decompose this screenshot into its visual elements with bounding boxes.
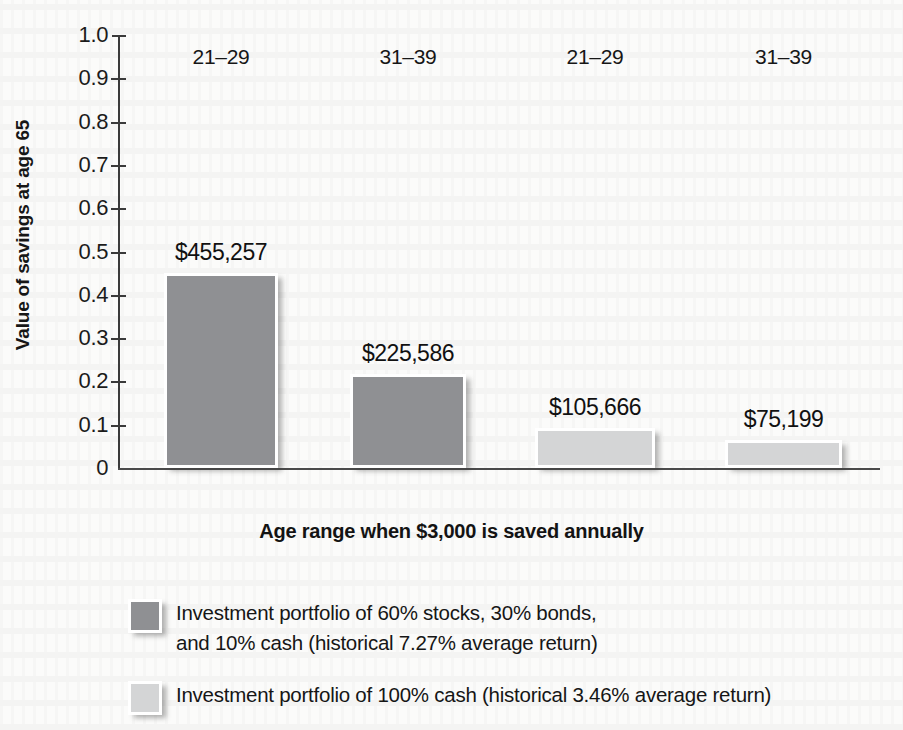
y-axis-tick-label: 0.7 bbox=[52, 152, 108, 178]
y-axis-tick-label: 0 bbox=[52, 455, 108, 481]
x-axis-line bbox=[118, 468, 880, 470]
y-axis-tick-mark bbox=[111, 381, 126, 383]
y-axis-tick-mark bbox=[111, 252, 126, 254]
y-axis-tick-mark bbox=[111, 78, 126, 80]
y-axis-title: Value of savings at age 65 bbox=[0, 0, 46, 470]
y-axis-tick-label: 0.2 bbox=[52, 368, 108, 394]
legend-label-line-2: and 10% cash (historical 7.27% average r… bbox=[176, 628, 598, 658]
y-axis-tick-mark bbox=[111, 338, 126, 340]
legend-label: Investment portfolio of 100% cash (histo… bbox=[176, 680, 771, 710]
y-axis-tick-label: 0.1 bbox=[52, 412, 108, 438]
legend-label-line-1: Investment portfolio of 100% cash (histo… bbox=[176, 683, 771, 706]
y-axis-top-cap bbox=[112, 35, 126, 37]
legend-color-swatch bbox=[128, 681, 162, 715]
bar bbox=[164, 273, 278, 468]
y-axis-tick-label: 0.8 bbox=[52, 109, 108, 135]
y-axis-tick-mark bbox=[111, 425, 126, 427]
legend-label-line-1: Investment portfolio of 60% stocks, 30% … bbox=[176, 601, 596, 624]
bar bbox=[350, 374, 466, 468]
bar-value-label: $75,199 bbox=[705, 406, 862, 433]
y-axis-tick-label: 0.3 bbox=[52, 325, 108, 351]
y-axis-tick-mark bbox=[111, 295, 126, 297]
legend-label: Investment portfolio of 60% stocks, 30% … bbox=[176, 598, 598, 658]
bar bbox=[725, 440, 842, 468]
legend-item: Investment portfolio of 60% stocks, 30% … bbox=[128, 598, 888, 658]
legend-item: Investment portfolio of 100% cash (histo… bbox=[128, 680, 888, 715]
y-axis-tick-label: 1.0 bbox=[52, 22, 108, 48]
chart-legend: Investment portfolio of 60% stocks, 30% … bbox=[128, 598, 888, 730]
x-axis-tick-label: 21–29 bbox=[139, 45, 303, 69]
x-axis-tick-label: 21–29 bbox=[510, 45, 680, 69]
bar-value-label: $225,586 bbox=[330, 340, 486, 367]
y-axis-title-text: Value of savings at age 65 bbox=[12, 120, 34, 350]
x-axis-tick-label: 31–39 bbox=[325, 45, 491, 69]
y-axis-tick-mark bbox=[111, 165, 126, 167]
x-axis-title: Age range when $3,000 is saved annually bbox=[0, 520, 903, 543]
y-axis-tick-label: 0.6 bbox=[52, 195, 108, 221]
bar-value-label: $105,666 bbox=[515, 394, 675, 421]
x-axis-tick-label: 31–39 bbox=[700, 45, 867, 69]
bar-chart-figure: Value of savings at age 65 1.00.90.80.70… bbox=[0, 0, 903, 730]
y-axis-tick-mark bbox=[111, 122, 126, 124]
y-axis-tick-labels: 1.00.90.80.70.60.50.40.30.20.10 bbox=[48, 0, 108, 730]
y-axis-tick-mark bbox=[111, 208, 126, 210]
y-axis-tick-label: 0.5 bbox=[52, 239, 108, 265]
legend-color-swatch bbox=[128, 599, 162, 633]
plot-area: $455,257$225,586$105,666$75,199 21–2931–… bbox=[118, 35, 880, 468]
bar-value-label: $455,257 bbox=[144, 239, 298, 266]
y-axis-tick-label: 0.4 bbox=[52, 282, 108, 308]
bar bbox=[535, 428, 655, 468]
y-axis-tick-label: 0.9 bbox=[52, 65, 108, 91]
